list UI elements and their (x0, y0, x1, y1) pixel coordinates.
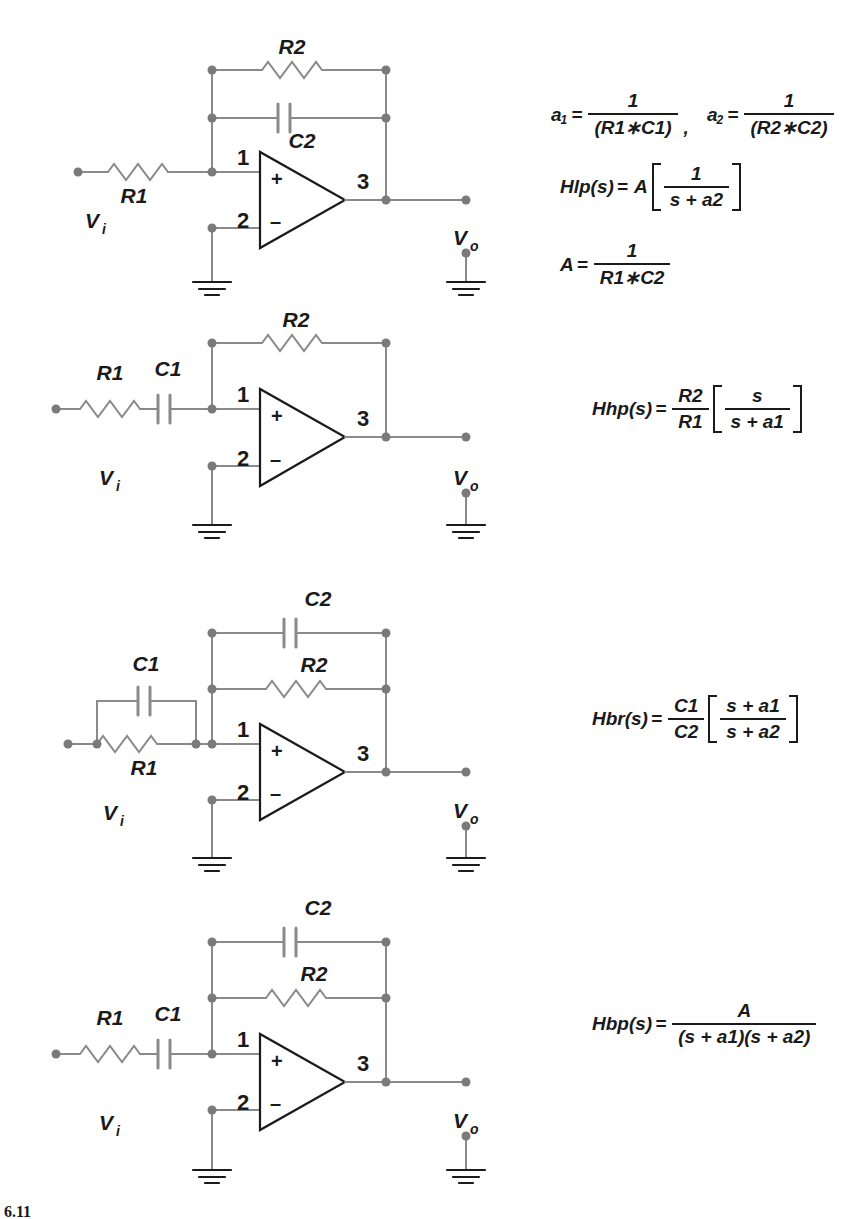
equation-hlp: Hlp(s) = A 1 s + a2 (560, 163, 742, 211)
opamp-triangle (260, 1034, 345, 1130)
eq-hlp-equals: = (614, 176, 631, 198)
eq-hbr-bracket: s + a1 s + a2 (708, 695, 797, 743)
label-vo-sub: o (470, 238, 479, 254)
equation-A: A = 1 R1∗C2 (560, 240, 673, 289)
node-output (382, 433, 391, 442)
bracket-left (652, 163, 661, 211)
label-r1: R1 (97, 1006, 124, 1029)
terminal-output (462, 768, 471, 777)
circuit-high-pass-filter: R1 C1 R2 1 2 3 + – V i V o (0, 310, 520, 590)
eq-a1-fraction: 1 (R1∗C1) (588, 90, 677, 139)
eq-hbp-numerator: A (731, 1000, 757, 1023)
label-vo: V (453, 226, 469, 249)
label-vi: V (85, 209, 101, 232)
equation-hbr: Hbr(s) = C1 C2 s + a1 s + a2 (592, 695, 799, 743)
opamp-triangle (260, 389, 345, 486)
label-c2: C2 (305, 587, 332, 610)
node-c1-r1-left (93, 740, 102, 749)
label-c2: C2 (289, 129, 316, 152)
eq-hlp-name: Hlp(s) (560, 176, 614, 198)
eq-hbr-pre-numerator: C1 (668, 695, 704, 718)
equation-hhp: Hhp(s) = R2 R1 s s + a1 (592, 385, 803, 433)
node-c2-left (208, 938, 217, 947)
pin-label-plus: 1 (237, 145, 249, 170)
label-c1: C1 (155, 1002, 182, 1025)
node-c2-left (208, 114, 217, 123)
terminal-output (462, 1078, 471, 1087)
eq-hbr-numerator: s + a1 (720, 695, 785, 718)
node-r2-left (208, 66, 217, 75)
eq-hlp-gain: A (631, 176, 651, 198)
circuit-low-pass-filter: R1 R2 C2 1 2 3 + – V i V o (0, 0, 520, 320)
resistor-r1-zigzag (80, 401, 140, 417)
pin-label-minus: 2 (237, 780, 249, 805)
label-vi-sub: i (116, 478, 121, 494)
opamp-minus-sign: – (270, 1092, 281, 1114)
eq-hhp-equals: = (652, 398, 669, 420)
eq-hbr-equals: = (648, 708, 665, 730)
node-inverting (208, 168, 217, 177)
node-ground-in (208, 1106, 217, 1115)
label-vo: V (453, 799, 469, 822)
eq-a1-numerator: 1 (622, 90, 645, 113)
bracket-left (713, 385, 722, 433)
circuit-band-pass-filter: R1 C1 C2 R2 1 2 3 + – V i V o (0, 880, 520, 1190)
node-inverting (208, 405, 217, 414)
label-c1: C1 (133, 652, 160, 675)
bracket-right (732, 163, 741, 211)
label-vi-sub: i (102, 221, 107, 237)
eq-a2-equals: = (724, 104, 741, 126)
resistor-r1-zigzag (97, 736, 157, 752)
node-r2-right (382, 339, 391, 348)
node-output (382, 196, 391, 205)
label-r2: R2 (279, 35, 306, 58)
figure-page: R1 R2 C2 1 2 3 + – V i V o a 1 = 1 (R1∗C… (0, 0, 855, 1219)
resistor-r1-zigzag (80, 1046, 140, 1062)
opamp-minus-sign: – (270, 782, 281, 804)
pin-label-minus: 2 (237, 446, 249, 471)
resistor-r2-zigzag (262, 335, 322, 351)
node-r2-left (208, 685, 217, 694)
eq-hbp-denominator: (s + a1)(s + a2) (672, 1023, 816, 1048)
node-inverting (208, 1050, 217, 1059)
node-c2-right (382, 629, 391, 638)
eq-a1-sub: 1 (561, 113, 568, 127)
equation-hbp: Hbp(s) = A (s + a1)(s + a2) (592, 1000, 819, 1048)
label-vo-sub: o (470, 1121, 479, 1137)
opamp-minus-sign: – (270, 210, 281, 232)
eq-hhp-name: Hhp(s) (592, 398, 652, 420)
bracket-right (793, 385, 802, 433)
bracket-left (708, 695, 717, 743)
eq-a2-fraction: 1 (R2∗C2) (744, 90, 833, 139)
eq-hlp-fraction: 1 s + a2 (664, 163, 729, 211)
node-r2-right (382, 994, 391, 1003)
eq-a1-denominator: (R1∗C1) (588, 113, 677, 139)
label-r1: R1 (97, 361, 124, 384)
eq-a2-sub: 2 (717, 113, 724, 127)
pin-label-plus: 1 (237, 382, 249, 407)
node-r2-right (382, 685, 391, 694)
label-vi-sub: i (116, 1123, 121, 1139)
label-r2: R2 (301, 962, 328, 985)
opamp-triangle (260, 724, 345, 820)
label-vo-sub: o (470, 811, 479, 827)
label-c1: C1 (155, 357, 182, 380)
resistor-r2-zigzag (266, 681, 326, 697)
node-c2-left (208, 629, 217, 638)
pin-label-minus: 2 (237, 1090, 249, 1115)
eq-hhp-numerator: s (746, 385, 769, 408)
terminal-input (74, 168, 83, 177)
node-r2-left (208, 339, 217, 348)
terminal-output (462, 196, 471, 205)
eq-A-equals: = (574, 254, 591, 276)
opamp-plus-sign: + (271, 1050, 283, 1072)
terminal-input (64, 740, 73, 749)
pin-label-out: 3 (357, 169, 369, 194)
label-vi: V (99, 466, 115, 489)
pin-label-plus: 1 (237, 1027, 249, 1052)
node-ground-in (208, 462, 217, 471)
terminal-output (462, 433, 471, 442)
eq-hhp-denominator: s + a1 (725, 408, 790, 433)
label-r2: R2 (283, 310, 310, 331)
circuit-band-reject-filter: R1 C1 C2 R2 1 2 3 + – V i V o (0, 580, 520, 880)
